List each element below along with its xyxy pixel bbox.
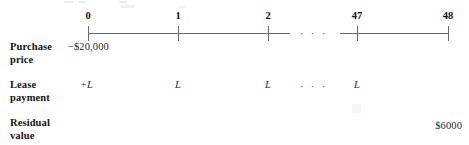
value-lease-payment-t0: +L	[80, 79, 93, 91]
tick-mark-47	[357, 26, 358, 41]
tick-label-0: 0	[85, 10, 90, 22]
axis-segment-left	[88, 33, 290, 34]
row-label-residual-value-line1: Residual	[10, 117, 50, 128]
tick-mark-0	[88, 26, 89, 41]
tick-label-47: 47	[352, 10, 363, 22]
tick-mark-2	[268, 26, 269, 41]
row-label-residual-value-line2: value	[10, 130, 50, 143]
value-residual-value-t48: $6000	[435, 120, 462, 132]
tick-label-48: 48	[443, 10, 454, 22]
row-label-purchase-price: Purchase price	[10, 41, 52, 66]
row-label-purchase-price-line2: price	[10, 54, 52, 67]
row-label-purchase-price-line1: Purchase	[10, 41, 52, 52]
scan-artifact	[178, 6, 187, 8]
tick-mark-1	[178, 26, 179, 41]
row-label-lease-payment-line1: Lease	[10, 79, 36, 90]
value-lease-payment-t1: L	[175, 79, 181, 91]
lease-payment-break-ellipsis: · · ·	[300, 81, 328, 92]
value-purchase-price-t0: −$20,000	[68, 41, 109, 53]
scan-artifact	[64, 1, 73, 3]
row-label-lease-payment: Lease payment	[10, 79, 50, 104]
scan-artifact	[352, 104, 361, 113]
scan-artifact	[119, 1, 127, 3]
tick-label-1: 1	[175, 10, 180, 22]
axis-break-ellipsis: · · ·	[300, 28, 328, 39]
scan-artifact	[79, 1, 86, 3]
row-label-lease-payment-line2: payment	[10, 92, 50, 105]
value-lease-payment-t2: L	[265, 79, 271, 91]
tick-label-2: 2	[265, 10, 270, 22]
row-label-residual-value: Residual value	[10, 117, 50, 142]
cash-flow-timeline-figure: 0 1 2 47 48 · · · Purchase price −$20,00…	[0, 0, 469, 145]
value-lease-payment-t47: L	[354, 79, 360, 91]
scan-artifact	[121, 5, 135, 8]
tick-mark-48	[448, 26, 449, 41]
